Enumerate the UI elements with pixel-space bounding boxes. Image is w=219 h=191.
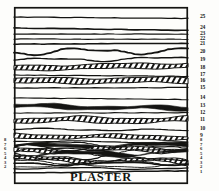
stratum-label-21: 21 bbox=[200, 41, 205, 47]
stratum-label-19: 19 bbox=[200, 57, 205, 63]
stratum-label-18: 18 bbox=[200, 65, 205, 71]
stratigraphy-figure: 2524232221201918171615141312111098765432… bbox=[0, 0, 219, 191]
stratum-label-1: 1 bbox=[200, 170, 202, 175]
stratum-line-wavy bbox=[14, 128, 188, 130]
plaster-caption: PLASTER bbox=[14, 170, 188, 185]
stratum-label-14: 14 bbox=[200, 95, 205, 101]
stratum-band-solid bbox=[14, 103, 188, 111]
stratum-line bbox=[14, 17, 188, 19]
stratum-label-16: 16 bbox=[200, 78, 205, 84]
stratum-band-hatched bbox=[14, 116, 188, 124]
stratum-left-label-2: 2 bbox=[4, 165, 6, 170]
stratum-band-hatched bbox=[14, 77, 188, 85]
stratum-line bbox=[14, 28, 188, 30]
stratum-line bbox=[14, 87, 188, 88]
stratum-line bbox=[14, 113, 188, 114]
stratum-band-hatched bbox=[14, 63, 188, 71]
layer-group bbox=[14, 17, 188, 173]
stratum-line bbox=[14, 39, 188, 40]
stratigraphy-drawing bbox=[0, 0, 219, 191]
stratum-line-wavy bbox=[14, 48, 188, 55]
stratum-label-11: 11 bbox=[200, 117, 205, 123]
stratum-label-20: 20 bbox=[200, 49, 205, 55]
stratum-line-wavy bbox=[14, 57, 188, 61]
stratum-label-25: 25 bbox=[200, 14, 205, 20]
stratum-label-15: 15 bbox=[200, 85, 205, 91]
stratum-line bbox=[14, 43, 188, 44]
stratum-label-10: 10 bbox=[200, 126, 205, 132]
stratum-label-12: 12 bbox=[200, 110, 205, 116]
stratum-line bbox=[14, 98, 188, 100]
stratum-label-13: 13 bbox=[200, 103, 205, 109]
stratum-band-hatched bbox=[14, 133, 188, 141]
